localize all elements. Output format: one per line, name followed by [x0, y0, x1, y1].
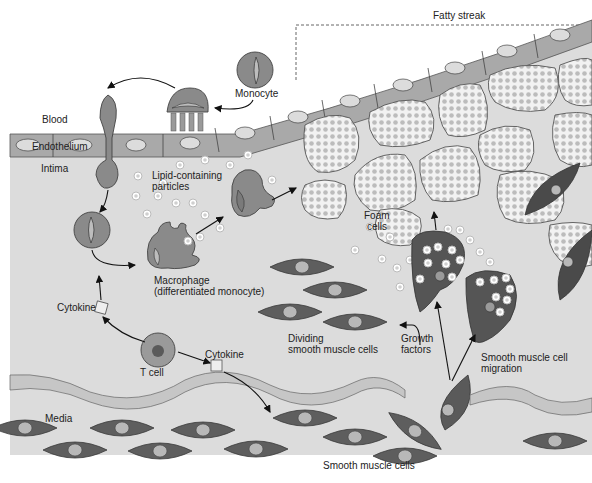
lipid-particles-label-1: Lipid-containing	[152, 170, 222, 181]
t-cell-label: T cell	[140, 367, 164, 378]
fatty-streak-label: Fatty streak	[433, 10, 485, 21]
intima-label: Intima	[41, 163, 68, 174]
dividing-smc-label-2: smooth muscle cells	[288, 344, 378, 355]
monocyte-label: Monocyte	[235, 88, 278, 99]
foam-cells-label-1: Foam	[364, 210, 390, 221]
macrophage-label-2: (differentiated monocyte)	[154, 286, 264, 297]
atherosclerosis-diagram	[0, 0, 592, 483]
lipid-particles-label-2: particles	[152, 181, 189, 192]
cytokine-right-label: Cytokine	[205, 349, 244, 360]
growth-factors-label-1: Growth	[401, 333, 433, 344]
monocyte-intima	[74, 212, 110, 248]
macrophage-label-1: Macrophage	[154, 275, 210, 286]
smooth-muscle-cells-label: Smooth muscle cells	[323, 460, 415, 471]
cytokine-box-right	[211, 360, 222, 371]
blood-label: Blood	[42, 114, 68, 125]
cytokine-left-label: Cytokine	[57, 302, 96, 313]
smc-migration-label-1: Smooth muscle cell	[481, 352, 568, 363]
adhering-monocyte	[167, 88, 208, 131]
media-label: Media	[45, 413, 72, 424]
growth-factors-label-2: factors	[401, 344, 431, 355]
monocyte-blood	[237, 52, 273, 88]
smc-migration-label-2: migration	[481, 363, 522, 374]
dividing-smc-label-1: Dividing	[288, 333, 324, 344]
foam-cells-label-2: cells	[367, 221, 387, 232]
cytokine-box-left	[95, 301, 108, 314]
t-cell	[141, 333, 175, 367]
endothelium-label: Endothelium	[32, 141, 88, 152]
